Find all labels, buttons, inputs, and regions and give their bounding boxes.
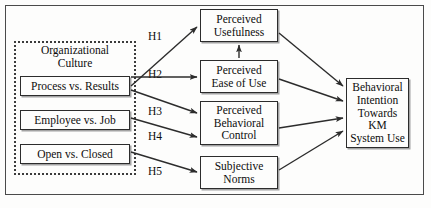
node-process-vs-results: Process vs. Results xyxy=(20,76,130,96)
node-perceived-behavioral-control: Perceived Behavioral Control xyxy=(200,101,278,145)
node-employee-vs-job: Employee vs. Job xyxy=(20,110,130,130)
node-perceived-usefulness-label: Perceived Usefulness xyxy=(212,13,266,39)
node-perceived-usefulness: Perceived Usefulness xyxy=(200,9,278,42)
hypothesis-label-h3: H3 xyxy=(144,105,166,117)
organizational-culture-group-label: Organizational Culture xyxy=(18,44,132,70)
hypothesis-label-h2: H2 xyxy=(144,68,166,80)
figure-canvas: Organizational Culture Process vs. Resul… xyxy=(0,0,431,208)
node-perceived-behavioral-control-label: Perceived Behavioral Control xyxy=(212,104,266,143)
node-open-vs-closed-label: Open vs. Closed xyxy=(35,148,115,161)
node-behavioral-intention: Behavioral Intention Towards KM System U… xyxy=(346,78,409,148)
node-subjective-norms-label: Subjective Norms xyxy=(213,160,266,186)
node-open-vs-closed: Open vs. Closed xyxy=(20,144,130,164)
node-behavioral-intention-label: Behavioral Intention Towards KM System U… xyxy=(348,81,407,145)
node-process-vs-results-label: Process vs. Results xyxy=(29,80,121,93)
node-employee-vs-job-label: Employee vs. Job xyxy=(32,114,117,127)
hypothesis-label-h1: H1 xyxy=(144,30,166,42)
hypothesis-label-h4: H4 xyxy=(144,130,166,142)
node-subjective-norms: Subjective Norms xyxy=(200,156,278,189)
hypothesis-label-h5: H5 xyxy=(144,165,166,177)
node-perceived-ease-of-use: Perceived Ease of Use xyxy=(200,60,278,93)
node-perceived-ease-of-use-label: Perceived Ease of Use xyxy=(210,64,269,90)
